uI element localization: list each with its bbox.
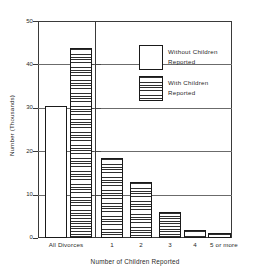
y-tick-label-30: 30 <box>3 104 33 110</box>
x-tick-label-3: 3 <box>159 241 181 248</box>
y-tick-label-40: 40 <box>3 61 33 67</box>
inner-tick-20 <box>96 151 101 152</box>
bar-children-3 <box>159 212 181 238</box>
x-axis-label: Number of Children Reported <box>38 258 232 265</box>
x-tick-label-5-or-more: 5 or more <box>202 241 246 248</box>
x-tick-label-1: 1 <box>101 241 123 248</box>
x-tick-label-all-divorces: All Divorces <box>35 241 97 248</box>
legend-swatch-with-children <box>139 76 163 101</box>
inner-tick-40 <box>96 64 101 65</box>
bar-children-5-or-more <box>208 233 231 238</box>
legend-label-with-children: With Children Reported <box>168 78 248 97</box>
x-tick-label-2: 2 <box>130 241 152 248</box>
y-tick-mark-0 <box>33 238 38 239</box>
bar-children-4 <box>184 230 206 238</box>
bar-children-1 <box>101 158 123 238</box>
inner-tick-30 <box>96 108 101 109</box>
y-tick-label-50: 50 <box>3 18 33 24</box>
y-tick-label-10: 10 <box>3 191 33 197</box>
panel-divider <box>95 21 96 238</box>
y-tick-label-0: 0 <box>3 234 33 240</box>
divorces-bar-chart: Number (Thousands) 50 40 30 20 10 0 All … <box>0 0 254 275</box>
bar-children-2 <box>130 182 152 238</box>
y-axis-label: Number (Thousands) <box>8 66 15 186</box>
bar-all-divorces-without-children <box>45 106 67 238</box>
bar-all-divorces-with-children <box>70 48 92 238</box>
gridline-30 <box>38 108 232 109</box>
legend-label-without-children: Without Children Reported <box>168 47 248 66</box>
legend-swatch-without-children <box>139 45 163 70</box>
y-tick-label-20: 20 <box>3 148 33 154</box>
gridline-20 <box>38 151 232 152</box>
